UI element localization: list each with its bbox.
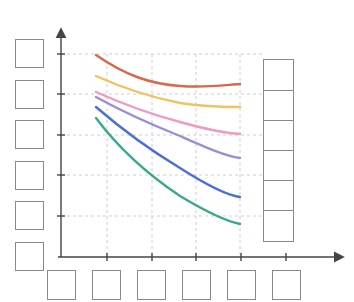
legend-cell-5: [264, 181, 293, 211]
legend: [263, 59, 294, 242]
series-6-line: [96, 118, 240, 224]
y-axis: [57, 30, 65, 257]
x-label-box-3: [137, 270, 166, 300]
legend-cell-2: [264, 91, 293, 121]
line-chart: [0, 0, 354, 302]
y-label-box-6: [15, 242, 44, 271]
x-label-box-5: [227, 270, 256, 300]
x-label-box-2: [92, 270, 121, 300]
legend-cell-1: [264, 60, 293, 91]
y-label-box-5: [15, 201, 44, 230]
x-axis: [58, 253, 342, 261]
series-3-line: [96, 92, 240, 134]
series-lines: [96, 55, 240, 224]
series-1-line: [96, 55, 240, 87]
y-label-box-1: [15, 39, 44, 68]
legend-cell-4: [264, 151, 293, 181]
x-label-box-6: [272, 270, 301, 300]
y-label-box-3: [15, 120, 44, 149]
y-label-box-4: [15, 161, 44, 190]
x-label-box-1: [47, 270, 76, 300]
x-label-box-4: [182, 270, 211, 300]
legend-cell-3: [264, 121, 293, 151]
y-label-box-2: [15, 80, 44, 109]
